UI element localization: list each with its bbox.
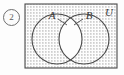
set-a-label: A [48, 9, 56, 21]
venn-diagram: A B U [24, 3, 118, 69]
venn-diagram-svg: A B U [24, 3, 118, 69]
universal-set-label: U [105, 6, 114, 18]
venn-diagram-figure-panel: 2 [0, 0, 124, 75]
item-number-badge: 2 [3, 9, 20, 26]
set-b-label: B [86, 9, 93, 21]
universal-set-shading [25, 4, 117, 68]
